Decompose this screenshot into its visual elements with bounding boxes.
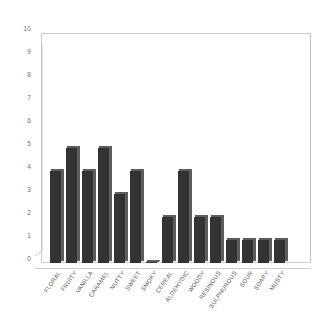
bar-slot [210,33,226,269]
y-axis-tick-label: 5 [27,140,31,147]
bar-slot [162,33,178,269]
bar-top-face [83,169,95,171]
bar-side-face [173,215,176,261]
bar-top-face [163,215,175,217]
bar-slot [66,33,82,269]
bar[interactable] [82,171,93,263]
bar-slot [146,33,162,269]
bar-side-face [141,169,144,261]
bar-chart: 012345678910 FLORALFRUITYVANILLACARAMELN… [0,0,325,325]
bar-top-face [51,169,63,171]
bar[interactable] [98,148,109,263]
bar-slot [178,33,194,269]
bar-top-face [227,238,239,240]
y-axis-tick-label: 10 [24,25,31,32]
bar[interactable] [210,217,221,263]
bar[interactable] [242,240,253,263]
y-axis-tick-label: 7 [27,94,31,101]
x-axis-tick-label: MUSTY [268,270,286,291]
bar-top-face [115,192,127,194]
x-axis: FLORALFRUITYVANILLACARAMELNUTTYSWEETSMOK… [35,270,311,325]
bar-top-face [99,146,111,148]
bar-side-face [285,238,288,261]
bar[interactable] [274,240,285,263]
y-axis-tick-label: 3 [27,186,31,193]
y-axis: 012345678910 [0,28,36,273]
bar-slot [114,33,130,269]
y-axis-tick-label: 9 [27,48,31,55]
bar-side-face [109,146,112,261]
y-axis-tick-label: 6 [27,117,31,124]
bar-slot [242,33,258,269]
bar-top-face [179,169,191,171]
x-axis-tick-label: SOUR [239,270,254,288]
bar-side-face [125,192,128,261]
bar-slot [82,33,98,269]
bar[interactable] [178,171,189,263]
y-axis-tick-label: 2 [27,209,31,216]
y-axis-tick-label: 1 [27,232,31,239]
bar[interactable] [146,262,157,263]
y-axis-tick-label: 0 [27,255,31,262]
bar-slot [98,33,114,269]
bar[interactable] [50,171,61,263]
bar-top-face [147,260,159,262]
bar-slot [226,33,242,269]
bar-slot [258,33,274,269]
bar-side-face [253,238,256,261]
bar[interactable] [114,194,125,263]
bar-side-face [221,215,224,261]
bar-side-face [205,215,208,261]
bar[interactable] [258,240,269,263]
bar-top-face [243,238,255,240]
bar-slot [50,33,66,269]
bar-slot [274,33,290,269]
bar-top-face [131,169,143,171]
bar[interactable] [130,171,141,263]
bar-top-face [67,146,79,148]
bar-side-face [93,169,96,261]
bar-side-face [189,169,192,261]
bar[interactable] [194,217,205,263]
bar-slot [130,33,146,269]
bar[interactable] [66,148,77,263]
y-axis-tick-label: 4 [27,163,31,170]
bar-slot [194,33,210,269]
bar[interactable] [162,217,173,263]
bar-top-face [195,215,207,217]
y-axis-tick-label: 8 [27,71,31,78]
bar-side-face [269,238,272,261]
bar-side-face [237,238,240,261]
bar-side-face [61,169,64,261]
bar-side-face [77,146,80,261]
bar-top-face [211,215,223,217]
bar-top-face [259,238,271,240]
bars-layer [35,33,311,269]
bar[interactable] [226,240,237,263]
bar-top-face [275,238,287,240]
x-axis-tick-label: FLORAL [43,270,62,294]
